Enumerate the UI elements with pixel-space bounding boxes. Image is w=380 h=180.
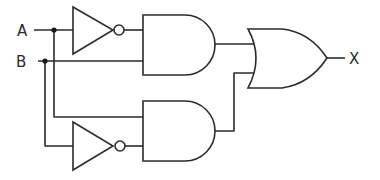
and-gate-2 xyxy=(143,101,215,161)
and-gate-1 xyxy=(143,15,215,75)
inversion-bubble-2 xyxy=(115,141,125,151)
junction-dot-b xyxy=(42,58,47,63)
logic-circuit-diagram: A B X xyxy=(0,0,380,180)
inversion-bubble-1 xyxy=(114,25,124,35)
input-label-b: B xyxy=(16,53,26,71)
output-label-x: X xyxy=(349,50,359,68)
wire-and2-to-or xyxy=(215,73,256,131)
junction-dot-a xyxy=(51,27,56,32)
input-label-a: A xyxy=(17,22,28,40)
not-gate-2 xyxy=(73,122,143,170)
or-gate xyxy=(248,29,327,88)
not-gate-1 xyxy=(73,7,143,54)
circuit-svg: A B X xyxy=(0,0,380,180)
